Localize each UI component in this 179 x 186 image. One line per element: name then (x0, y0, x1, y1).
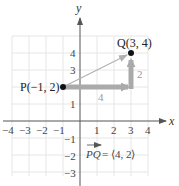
y-tick-labels: 4 3 1 −1 −2 −3 (64, 47, 76, 179)
x-tick: 3 (128, 124, 134, 136)
point-p (60, 84, 66, 90)
point-q (128, 50, 134, 56)
y-tick: 3 (70, 64, 76, 76)
y-tick: −1 (64, 133, 76, 145)
vector-value: = ⟨4, 2⟩ (102, 148, 135, 160)
x-tick: −3 (19, 124, 31, 136)
vertical-component-label: 2 (137, 68, 143, 80)
y-axis-label: y (75, 1, 82, 15)
x-axis-label: x (168, 114, 175, 128)
vector-equation: PQ = ⟨4, 2⟩ (85, 145, 135, 160)
vector-name: PQ (85, 148, 101, 160)
x-tick: −1 (53, 124, 65, 136)
y-tick: −2 (64, 150, 76, 162)
y-tick: −3 (64, 167, 76, 179)
point-q-label: Q(3, 4) (117, 36, 152, 50)
y-tick: 1 (70, 98, 76, 110)
x-tick: 1 (94, 124, 100, 136)
x-tick: 4 (145, 124, 151, 136)
x-tick: 2 (111, 124, 117, 136)
x-tick-labels: −4 −3 −2 −1 1 2 3 4 (2, 124, 151, 136)
x-tick: −2 (36, 124, 48, 136)
y-tick: 4 (70, 47, 76, 59)
point-p-label: P(−1, 2) (20, 80, 59, 94)
coordinate-plane-diagram: x y −4 −3 −2 −1 1 2 3 4 4 3 1 −1 −2 −3 4… (0, 0, 179, 186)
x-tick: −4 (2, 124, 14, 136)
horizontal-component-label: 4 (98, 91, 104, 103)
